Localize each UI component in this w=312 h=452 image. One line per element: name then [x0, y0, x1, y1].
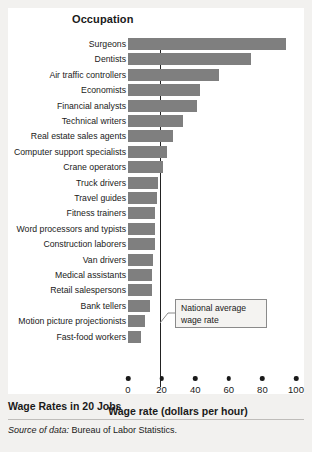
bar [128, 177, 158, 189]
x-tick-label: 40 [190, 384, 201, 395]
bar [128, 146, 167, 158]
bar [128, 254, 153, 266]
bar [128, 300, 150, 312]
bar [128, 238, 155, 250]
bar [128, 161, 163, 173]
x-tick-dot [227, 376, 232, 381]
bar-category-label: Surgeons [89, 37, 126, 52]
x-tick-dot [126, 376, 131, 381]
x-tick-label: 0 [125, 384, 130, 395]
bar-category-label: Air traffic controllers [49, 68, 126, 83]
bar-row: Word processors and typists [8, 222, 304, 237]
x-tick-label: 20 [156, 384, 167, 395]
bar-category-label: Travel guides [74, 191, 126, 206]
bar-row: Computer support specialists [8, 145, 304, 160]
bar [128, 269, 152, 281]
x-tick-dot [193, 376, 198, 381]
x-tick-label: 100 [288, 384, 304, 395]
bar-row: Real estate sales agents [8, 129, 304, 144]
bar [128, 130, 173, 142]
bar-row: Bank tellers [8, 299, 304, 314]
bar-category-label: Medical assistants [55, 268, 126, 283]
figure-source: Source of data: Bureau of Labor Statisti… [8, 425, 177, 435]
bar-row: Surgeons [8, 37, 304, 52]
bar-category-label: Dentists [95, 52, 126, 67]
x-tick-label: 60 [224, 384, 235, 395]
bar-category-label: Economists [81, 83, 126, 98]
bar [128, 53, 251, 65]
bar-category-label: Crane operators [63, 160, 126, 175]
x-tick-dot [260, 376, 265, 381]
caption-divider [8, 419, 304, 420]
plot-area: National average wage rate 020406080100 … [8, 31, 304, 351]
bar-category-label: Word processors and typists [17, 222, 126, 237]
bar-category-label: Retail salespersons [50, 283, 126, 298]
source-text: Bureau of Labor Statistics. [72, 425, 178, 435]
bar-category-label: Financial analysts [57, 99, 126, 114]
bar-row: Crane operators [8, 160, 304, 175]
bar-category-label: Technical writers [62, 114, 126, 129]
bar [128, 284, 152, 296]
bar [128, 331, 141, 343]
bar-category-label: Computer support specialists [14, 145, 126, 160]
x-tick-dot [294, 376, 299, 381]
bar-row: Truck drivers [8, 176, 304, 191]
bar [128, 69, 219, 81]
bar-row: Fast-food workers [8, 330, 304, 345]
x-tick-label: 80 [257, 384, 268, 395]
figure-container: Occupation National average wage rate 02… [0, 0, 312, 452]
chart-panel: Occupation National average wage rate 02… [8, 8, 304, 394]
source-label: Source of data: [8, 425, 69, 435]
bar [128, 315, 145, 327]
bar-row: Dentists [8, 52, 304, 67]
bar-row: Retail salespersons [8, 283, 304, 298]
bar-row: Motion picture projectionists [8, 314, 304, 329]
bar-category-label: Construction laborers [43, 237, 126, 252]
bar-category-label: Van drivers [83, 253, 126, 268]
bar-row: Medical assistants [8, 268, 304, 283]
bar [128, 100, 197, 112]
bar-row: Van drivers [8, 253, 304, 268]
bar-category-label: Motion picture projectionists [18, 314, 126, 329]
bar-row: Fitness trainers [8, 206, 304, 221]
bar-category-label: Fitness trainers [67, 206, 126, 221]
bar [128, 223, 155, 235]
bar-category-label: Truck drivers [76, 176, 126, 191]
bar-row: Air traffic controllers [8, 68, 304, 83]
bar-row: Construction laborers [8, 237, 304, 252]
bar-category-label: Fast-food workers [56, 330, 126, 345]
x-tick-dot [159, 376, 164, 381]
bar-category-label: Bank tellers [81, 299, 126, 314]
bar-row: Travel guides [8, 191, 304, 206]
bar-row: Financial analysts [8, 99, 304, 114]
bar [128, 38, 286, 50]
bar [128, 207, 155, 219]
y-axis-title: Occupation [72, 13, 134, 25]
bar-category-label: Real estate sales agents [31, 129, 126, 144]
bar [128, 115, 183, 127]
bar [128, 84, 200, 96]
figure-caption-title: Wage Rates in 20 Jobs [8, 400, 121, 412]
bar [128, 192, 157, 204]
bar-row: Economists [8, 83, 304, 98]
bar-row: Technical writers [8, 114, 304, 129]
